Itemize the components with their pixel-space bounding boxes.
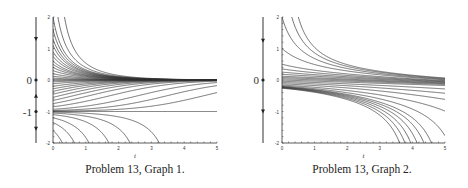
equilibrium-label: 0 — [27, 74, 33, 86]
figure-canvas: 210-1-2012345t0-1210-1-2012345t0 — [0, 0, 468, 188]
y-tick-label: -1 — [46, 110, 50, 115]
arrow-down-icon — [261, 39, 265, 43]
x-tick-label: 5 — [444, 146, 447, 151]
equilibrium-dot — [34, 110, 37, 113]
y-tick-label: 2 — [276, 15, 279, 20]
equilibrium-label: 0 — [254, 74, 260, 86]
arrow-down-icon — [34, 37, 38, 41]
phase-line: 0-1 — [23, 17, 38, 143]
x-tick-label: 1 — [85, 146, 88, 151]
x-axis-label: t — [134, 152, 137, 160]
arrow-down-icon — [34, 127, 38, 131]
x-tick-label: 1 — [313, 146, 316, 151]
x-tick-label: 3 — [379, 146, 382, 151]
x-tick-label: 4 — [411, 146, 414, 151]
x-axis-label: t — [363, 152, 366, 160]
graph2-caption: Problem 13, Graph 2. — [252, 163, 468, 175]
phase-line: 0 — [254, 17, 266, 143]
x-tick-label: 0 — [52, 146, 55, 151]
x-tick-label: 2 — [346, 146, 349, 151]
y-tick-label: 1 — [47, 47, 50, 52]
x-tick-label: 2 — [117, 146, 120, 151]
y-tick-label: 2 — [47, 15, 50, 20]
equilibrium-dot — [34, 78, 37, 81]
x-tick-label: 4 — [183, 146, 186, 151]
equilibrium-label: -1 — [23, 106, 32, 118]
arrow-up-icon — [34, 94, 38, 98]
graph1-caption: Problem 13, Graph 1. — [25, 163, 245, 175]
equilibrium-dot — [261, 78, 264, 81]
y-tick-label: -2 — [275, 141, 279, 146]
y-tick-label: 1 — [276, 47, 279, 52]
x-tick-label: 5 — [216, 146, 219, 151]
y-tick-label: 0 — [276, 78, 279, 83]
y-tick-label: -2 — [46, 141, 50, 146]
y-tick-label: 0 — [47, 78, 50, 83]
x-tick-label: 3 — [150, 146, 153, 151]
arrow-down-icon — [261, 110, 265, 114]
y-tick-label: -1 — [275, 110, 279, 115]
x-tick-label: 0 — [281, 146, 284, 151]
